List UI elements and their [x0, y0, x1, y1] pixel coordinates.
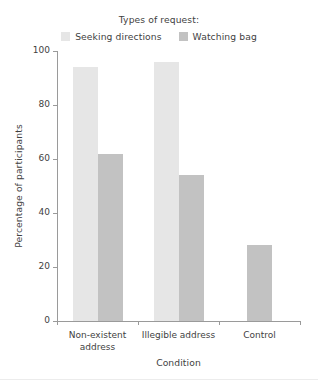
bar	[73, 67, 98, 321]
y-axis-label: Percentage of participants	[13, 51, 25, 321]
y-tick-label: 100	[33, 45, 50, 55]
y-tick-label: 40	[39, 207, 50, 217]
y-tick-label: 60	[39, 153, 50, 163]
x-category-label: Illegible address	[138, 330, 219, 342]
x-axis-label: Condition	[57, 357, 300, 368]
x-category-label: Non-existent address	[57, 330, 138, 353]
chart-legend: Seeking directions Watching bag	[0, 31, 318, 42]
y-tick-label: 20	[39, 261, 50, 271]
legend-swatch-watching-bag	[179, 32, 188, 41]
y-tick: 100	[53, 51, 57, 52]
x-tick	[138, 321, 139, 325]
x-tick	[57, 321, 58, 325]
legend-entry-seeking-directions: Seeking directions	[61, 31, 161, 42]
plot-area: 020406080100 Non-existent addressIllegib…	[57, 51, 300, 321]
bar-chart-figure: Types of request: Seeking directions Wat…	[0, 0, 318, 384]
y-tick-label: 80	[39, 99, 50, 109]
y-tick: 40	[53, 213, 57, 214]
legend-title: Types of request:	[0, 14, 318, 25]
y-tick: 80	[53, 105, 57, 106]
legend-label-seeking-directions: Seeking directions	[75, 31, 161, 42]
bar	[154, 62, 179, 321]
legend-swatch-seeking-directions	[61, 32, 70, 41]
x-category-label: Control	[219, 330, 300, 342]
legend-entry-watching-bag: Watching bag	[179, 31, 257, 42]
y-tick-label: 0	[44, 315, 50, 325]
legend-label-watching-bag: Watching bag	[193, 31, 257, 42]
y-tick: 60	[53, 159, 57, 160]
y-axis-line	[57, 51, 58, 321]
footer-divider	[0, 379, 318, 380]
bar	[179, 175, 204, 321]
x-axis-line	[57, 321, 300, 322]
y-tick: 20	[53, 267, 57, 268]
x-tick	[300, 321, 301, 325]
bar	[98, 154, 123, 321]
bar	[247, 245, 272, 321]
x-tick	[219, 321, 220, 325]
